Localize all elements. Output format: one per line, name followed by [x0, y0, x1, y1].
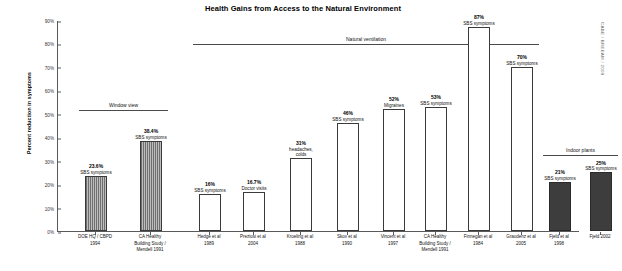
bar[interactable]: 87%SBS symptoms	[468, 27, 490, 231]
bar-caption: 53%SBS symptoms	[420, 95, 451, 106]
bar-condition-label: Migraines	[384, 103, 404, 108]
y-axis-label: Percent reduction in symptoms	[26, 72, 32, 154]
x-tick-mark	[600, 232, 601, 235]
bar-caption: 16.7%Doctor visits	[241, 180, 266, 191]
bar-slot[interactable]: 70%SBS symptoms	[511, 21, 533, 231]
bar-caption: 38.4%SBS symptoms	[135, 129, 166, 140]
x-tick-mark	[435, 232, 436, 235]
bar[interactable]: 31%headaches,colds	[290, 158, 312, 231]
bar[interactable]: 23.6%SBS symptoms	[85, 176, 107, 231]
x-tick-mark	[253, 232, 254, 235]
bar[interactable]: 52%Migraines	[383, 109, 405, 231]
plot-area: 0%10%20%30%40%50%60%70%80%90% Window vie…	[57, 21, 579, 232]
bar-caption: 52%Migraines	[384, 97, 404, 108]
y-tick-label: 20%	[45, 183, 58, 188]
bar-caption: 21%SBS symptoms	[544, 170, 575, 181]
y-tick-label: 10%	[45, 206, 58, 211]
bar-caption: 23.6%SBS symptoms	[80, 164, 111, 175]
bar-condition-label: SBS symptoms	[506, 61, 537, 66]
bar-slot[interactable]: 16%SBS symptoms	[199, 21, 221, 231]
bar[interactable]: 53%SBS symptoms	[425, 107, 447, 231]
bar-condition-label: SBS symptoms	[463, 21, 494, 26]
bar[interactable]: 25%SBS symptoms	[590, 172, 612, 231]
bar-caption: 16%SBS symptoms	[194, 182, 225, 193]
x-tick-mark	[393, 232, 394, 235]
y-tick-label: 30%	[45, 159, 58, 164]
bar-condition-label: SBS symptoms	[80, 170, 111, 175]
chart-title: Health Gains from Access to the Natural …	[0, 4, 606, 13]
x-tick-mark	[559, 232, 560, 235]
bar-condition-label: headaches,colds	[289, 147, 313, 158]
bar-slot[interactable]: 25%SBS symptoms	[590, 21, 612, 231]
bar-slot[interactable]: 46%SBS symptoms	[337, 21, 359, 231]
bar-slot[interactable]: 52%Migraines	[383, 21, 405, 231]
bar-condition-label: Doctor visits	[241, 186, 266, 191]
bar-slot[interactable]: 38.4%SBS symptoms	[140, 21, 162, 231]
bar-condition-label: SBS symptoms	[135, 135, 166, 140]
y-tick-label: 90%	[45, 19, 58, 24]
bar[interactable]: 46%SBS symptoms	[337, 123, 359, 231]
bar-condition-label: SBS symptoms	[544, 176, 575, 181]
bar-series: 23.6%SBS symptoms38.4%SBS symptoms16%SBS…	[58, 21, 579, 231]
x-tick-mark	[150, 232, 151, 235]
bar-caption: 25%SBS symptoms	[585, 161, 616, 172]
bar-caption: 31%headaches,colds	[289, 141, 313, 158]
bar[interactable]: 16.7%Doctor visits	[243, 192, 265, 231]
bar-slot[interactable]: 16.7%Doctor visits	[243, 21, 265, 231]
x-tick-label: Fjeld 2002	[572, 234, 622, 241]
y-tick-label: 60%	[45, 89, 58, 94]
bar[interactable]: 38.4%SBS symptoms	[140, 141, 162, 231]
y-tick-label: 50%	[45, 112, 58, 117]
x-tick-mark	[347, 232, 348, 235]
bar-condition-label: SBS symptoms	[332, 117, 363, 122]
bar-slot[interactable]: 21%SBS symptoms	[549, 21, 571, 231]
bar-caption: 87%SBS symptoms	[463, 15, 494, 26]
bar-slot[interactable]: 31%headaches,colds	[290, 21, 312, 231]
y-tick-label: 80%	[45, 42, 58, 47]
bar[interactable]: 70%SBS symptoms	[511, 67, 533, 231]
bar-condition-label: SBS symptoms	[420, 101, 451, 106]
x-tick-mark	[478, 232, 479, 235]
x-tick-mark	[209, 232, 210, 235]
bar-slot[interactable]: 53%SBS symptoms	[425, 21, 447, 231]
bar[interactable]: 21%SBS symptoms	[549, 182, 571, 231]
bar-condition-label: SBS symptoms	[194, 188, 225, 193]
bar[interactable]: 16%SBS symptoms	[199, 194, 221, 232]
x-tick-mark	[521, 232, 522, 235]
x-tick-mark	[95, 232, 96, 235]
y-tick-label: 70%	[45, 65, 58, 70]
x-axis-labels: DOE HQ / CBPD1994CA HealthyBuilding Stud…	[57, 234, 579, 268]
bar-slot[interactable]: 23.6%SBS symptoms	[85, 21, 107, 231]
bar-condition-label: SBS symptoms	[585, 166, 616, 171]
x-tick-label: CA HealthyBuilding Study /Mendell 1991	[122, 234, 178, 254]
bar-caption: 70%SBS symptoms	[506, 55, 537, 66]
bar-caption: 46%SBS symptoms	[332, 111, 363, 122]
x-tick-mark	[300, 232, 301, 235]
x-tick-label: DOE HQ / CBPD1994	[67, 234, 123, 247]
bar-slot[interactable]: 87%SBS symptoms	[468, 21, 490, 231]
y-tick-label: 40%	[45, 136, 58, 141]
